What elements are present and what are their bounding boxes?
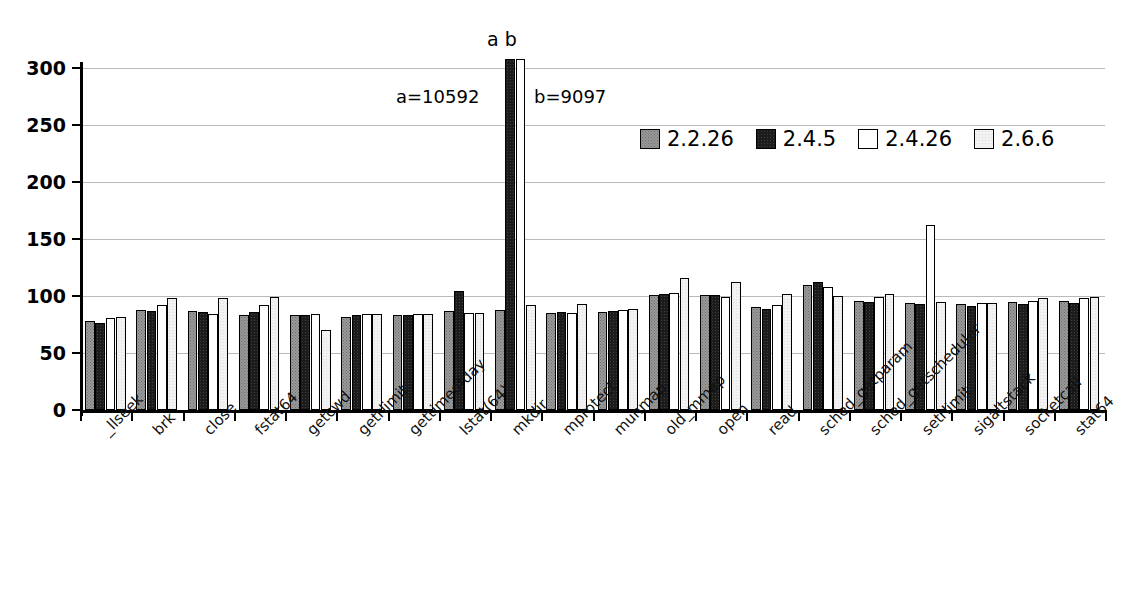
bar-group bbox=[490, 68, 541, 410]
legend-label: 2.6.6 bbox=[1001, 127, 1054, 151]
legend-item: 2.4.26 bbox=[858, 127, 952, 151]
bar bbox=[147, 311, 157, 410]
bar bbox=[157, 305, 167, 410]
y-tick-label: 250 bbox=[26, 114, 66, 136]
bar bbox=[977, 303, 987, 410]
bar bbox=[167, 298, 177, 410]
bar bbox=[577, 304, 587, 410]
legend-item: 2.2.26 bbox=[640, 127, 734, 151]
annotation-value-a: a=10592 bbox=[396, 86, 479, 107]
bar bbox=[208, 314, 218, 410]
legend: 2.2.262.4.52.4.262.6.6 bbox=[640, 127, 1076, 151]
y-tick-label: 100 bbox=[26, 285, 66, 307]
bar bbox=[782, 294, 792, 410]
bar-group bbox=[746, 68, 797, 410]
bar bbox=[259, 305, 269, 410]
bar bbox=[423, 314, 433, 410]
bar bbox=[813, 282, 823, 410]
bar-group bbox=[336, 68, 387, 410]
bar bbox=[300, 315, 310, 410]
bar-group bbox=[388, 68, 439, 410]
bar bbox=[372, 314, 382, 410]
bar bbox=[557, 312, 567, 410]
bar bbox=[95, 323, 105, 410]
bar bbox=[567, 313, 577, 410]
bar bbox=[546, 313, 556, 410]
bar bbox=[1079, 298, 1089, 410]
bar bbox=[218, 298, 228, 410]
legend-label: 2.4.26 bbox=[885, 127, 952, 151]
y-tick-label: 150 bbox=[26, 228, 66, 250]
bar bbox=[85, 321, 95, 410]
clipped-marker-label: a b bbox=[487, 28, 517, 50]
annotation-value-b: b=9097 bbox=[534, 86, 606, 107]
bar bbox=[526, 305, 536, 410]
y-tick-label: 50 bbox=[40, 342, 66, 364]
bar-group bbox=[541, 68, 592, 410]
bar bbox=[1038, 298, 1048, 410]
bar bbox=[1090, 297, 1100, 410]
bar bbox=[751, 307, 761, 410]
series-1-swatch bbox=[756, 129, 776, 149]
bar bbox=[874, 297, 884, 410]
bar bbox=[198, 312, 208, 410]
bar bbox=[731, 282, 741, 410]
y-tick-label: 300 bbox=[26, 57, 66, 79]
bar bbox=[680, 278, 690, 410]
x-tick-mark bbox=[183, 410, 185, 421]
bar bbox=[987, 303, 997, 410]
bar bbox=[188, 311, 198, 410]
legend-item: 2.4.5 bbox=[756, 127, 836, 151]
bar bbox=[516, 59, 526, 410]
series-3-swatch bbox=[974, 129, 994, 149]
y-tick-label: 200 bbox=[26, 171, 66, 193]
bar bbox=[721, 297, 731, 410]
bar bbox=[833, 296, 843, 410]
legend-item: 2.6.6 bbox=[974, 127, 1054, 151]
y-tick-label: 0 bbox=[53, 399, 66, 421]
bar bbox=[249, 312, 259, 410]
bar bbox=[270, 297, 280, 410]
bar bbox=[823, 287, 833, 410]
bar-group bbox=[1054, 68, 1105, 410]
bar bbox=[362, 314, 372, 410]
bar-group bbox=[593, 68, 644, 410]
bar-group bbox=[695, 68, 746, 410]
bar bbox=[311, 314, 321, 410]
x-tick-label: brk bbox=[149, 409, 179, 439]
bar bbox=[239, 315, 249, 410]
bar bbox=[1028, 301, 1038, 410]
bar-group bbox=[439, 68, 490, 410]
bar bbox=[803, 285, 813, 410]
bar bbox=[628, 309, 638, 410]
legend-label: 2.4.5 bbox=[783, 127, 836, 151]
bar bbox=[116, 317, 126, 410]
bar bbox=[505, 59, 515, 410]
bar-chart: 050100150200250300 _llseekbrkclosefstat6… bbox=[0, 0, 1138, 607]
bar-group bbox=[131, 68, 182, 410]
bar-group bbox=[234, 68, 285, 410]
series-0-swatch bbox=[640, 129, 660, 149]
bar bbox=[352, 315, 362, 410]
bar-group bbox=[951, 68, 1002, 410]
bar-group bbox=[798, 68, 849, 410]
legend-label: 2.2.26 bbox=[667, 127, 734, 151]
bar-group bbox=[183, 68, 234, 410]
bar bbox=[618, 310, 628, 410]
x-tick-mark bbox=[80, 410, 82, 421]
bar bbox=[106, 318, 116, 410]
bar bbox=[772, 305, 782, 410]
bar-group bbox=[644, 68, 695, 410]
bar bbox=[762, 309, 772, 410]
series-2-swatch bbox=[858, 129, 878, 149]
bar-group bbox=[285, 68, 336, 410]
bar bbox=[669, 293, 679, 410]
bar-group bbox=[1003, 68, 1054, 410]
bar bbox=[413, 314, 423, 410]
bar-group bbox=[80, 68, 131, 410]
